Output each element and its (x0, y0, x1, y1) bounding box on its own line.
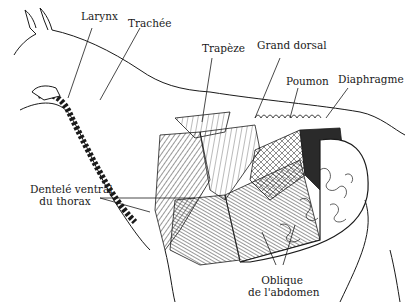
vertebrae-drawing (255, 115, 321, 118)
anatomy-diagram: Larynx Trachée Trapèze Grand dorsal Poum… (0, 0, 420, 302)
label-oblique-abdomen-line-2: de l'abdomen (248, 286, 316, 298)
label-oblique-abdomen: Oblique de l'abdomen (248, 274, 316, 298)
label-dentele-ventral: Dentelé ventral du thorax (30, 183, 100, 207)
label-poumon: Poumon (286, 75, 329, 87)
label-trachee: Trachée (128, 17, 171, 29)
label-dentele-ventral-line-1: Dentelé ventral (30, 183, 100, 195)
label-diaphragme: Diaphragme (338, 73, 404, 85)
neck-outline (20, 103, 150, 250)
label-oblique-abdomen-line-1: Oblique (248, 274, 316, 286)
label-trapeze: Trapèze (202, 42, 245, 54)
label-larynx: Larynx (81, 10, 118, 22)
label-grand-dorsal: Grand dorsal (257, 39, 327, 51)
label-dentele-ventral-line-2: du thorax (30, 195, 100, 207)
foreleg-outline (165, 250, 175, 302)
